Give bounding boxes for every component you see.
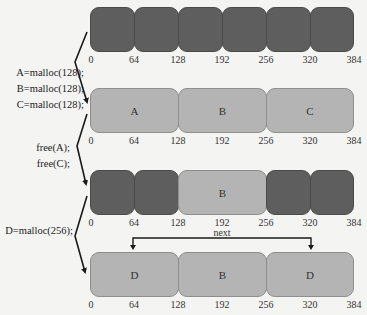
next-pointer-arrow-icon xyxy=(133,238,311,247)
transition-arrows xyxy=(0,0,367,315)
transition-arrow-icon xyxy=(75,32,87,102)
transition-arrow-icon xyxy=(75,196,87,272)
memory-allocation-diagram: 0 64 128 192 256 320 384 A B C 0 64 128 … xyxy=(0,0,367,315)
transition-arrow-icon xyxy=(77,114,87,184)
